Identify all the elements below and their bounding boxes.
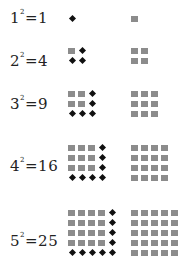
equation-label-1: 12=1	[10, 8, 48, 27]
gray-square-icon	[131, 111, 138, 117]
gray-square-icon	[131, 145, 138, 151]
gray-square-icon	[141, 240, 148, 246]
gray-square-icon	[161, 250, 168, 256]
gray-square-icon	[151, 240, 158, 246]
gray-square-icon	[131, 48, 138, 54]
equals-sign: =	[25, 232, 38, 250]
gray-square-icon	[151, 111, 158, 117]
gray-square-icon	[88, 240, 95, 246]
gray-square-icon	[131, 16, 138, 22]
gray-square-icon	[141, 145, 148, 151]
gray-square-icon	[98, 240, 105, 246]
gray-square-icon	[151, 91, 158, 97]
gray-square-icon	[161, 155, 168, 161]
gray-square-icon	[68, 91, 75, 97]
gray-square-icon	[151, 210, 158, 216]
gray-square-icon	[161, 145, 168, 151]
gray-square-icon	[88, 230, 95, 236]
gray-square-icon	[131, 210, 138, 216]
gray-square-icon	[78, 145, 85, 151]
gray-square-icon	[171, 240, 178, 246]
gray-square-icon	[68, 48, 75, 54]
gray-square-icon	[171, 220, 178, 226]
equals-sign: =	[25, 52, 38, 70]
gray-square-icon	[141, 250, 148, 256]
gray-square-icon	[141, 175, 148, 181]
gray-square-icon	[98, 230, 105, 236]
gray-square-icon	[141, 220, 148, 226]
gray-square-icon	[88, 155, 95, 161]
gray-square-icon	[131, 220, 138, 226]
gray-square-icon	[131, 240, 138, 246]
gray-square-icon	[78, 155, 85, 161]
gray-square-icon	[98, 220, 105, 226]
gray-square-icon	[161, 240, 168, 246]
gray-square-icon	[151, 250, 158, 256]
gray-square-icon	[161, 210, 168, 216]
gray-square-icon	[88, 220, 95, 226]
equation-base: 4	[10, 157, 20, 175]
gray-square-icon	[151, 165, 158, 171]
gray-square-icon	[141, 111, 148, 117]
gray-square-icon	[78, 91, 85, 97]
equation-base: 1	[10, 9, 20, 27]
equation-result: 16	[38, 157, 58, 175]
gray-square-icon	[68, 155, 75, 161]
gray-square-icon	[151, 145, 158, 151]
gray-square-icon	[171, 210, 178, 216]
gray-square-icon	[78, 240, 85, 246]
gray-square-icon	[161, 175, 168, 181]
gray-square-icon	[141, 48, 148, 54]
gray-square-icon	[78, 220, 85, 226]
gray-square-icon	[88, 165, 95, 171]
gray-square-icon	[141, 91, 148, 97]
gray-square-icon	[68, 210, 75, 216]
gray-square-icon	[78, 165, 85, 171]
gray-square-icon	[171, 250, 178, 256]
gray-square-icon	[141, 165, 148, 171]
gray-square-icon	[78, 210, 85, 216]
gray-square-icon	[151, 101, 158, 107]
gray-square-icon	[141, 101, 148, 107]
equals-sign: =	[25, 95, 38, 113]
gray-square-icon	[141, 210, 148, 216]
gray-square-icon	[131, 165, 138, 171]
gray-square-icon	[171, 230, 178, 236]
gray-square-icon	[98, 210, 105, 216]
gray-square-icon	[68, 220, 75, 226]
gray-square-icon	[68, 240, 75, 246]
gray-square-icon	[78, 230, 85, 236]
equation-result: 4	[38, 52, 48, 70]
gray-square-icon	[68, 230, 75, 236]
equation-result: 9	[38, 95, 48, 113]
gray-square-icon	[161, 230, 168, 236]
gray-square-icon	[131, 101, 138, 107]
gray-square-icon	[141, 58, 148, 64]
gray-square-icon	[161, 165, 168, 171]
equation-base: 2	[10, 52, 20, 70]
gray-square-icon	[151, 230, 158, 236]
gray-square-icon	[88, 210, 95, 216]
equation-label-5: 52=25	[10, 231, 58, 250]
gray-square-icon	[141, 155, 148, 161]
equation-base: 5	[10, 232, 20, 250]
gray-square-icon	[131, 250, 138, 256]
equation-label-2: 22=4	[10, 51, 48, 70]
gray-square-icon	[131, 175, 138, 181]
gray-square-icon	[131, 91, 138, 97]
gray-square-icon	[68, 145, 75, 151]
gray-square-icon	[161, 220, 168, 226]
equation-label-3: 32=9	[10, 94, 48, 113]
gray-square-icon	[131, 58, 138, 64]
equals-sign: =	[25, 157, 38, 175]
gray-square-icon	[78, 101, 85, 107]
gray-square-icon	[131, 155, 138, 161]
gray-square-icon	[88, 145, 95, 151]
equals-sign: =	[25, 9, 38, 27]
equation-label-4: 42=16	[10, 156, 58, 175]
gray-square-icon	[131, 230, 138, 236]
gray-square-icon	[151, 220, 158, 226]
gray-square-icon	[68, 101, 75, 107]
gray-square-icon	[68, 165, 75, 171]
equation-base: 3	[10, 95, 20, 113]
